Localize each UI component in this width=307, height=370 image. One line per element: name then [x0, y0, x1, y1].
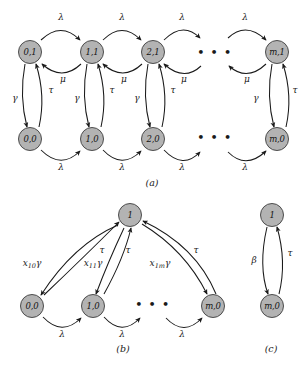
b-lambda-1: λ [59, 329, 65, 339]
a-mu-2: μ [121, 74, 127, 84]
a-lambda-top-1: λ [58, 12, 64, 22]
a-lambda-bot-3: λ [179, 162, 185, 172]
a-lambda-bot-4: λ [242, 162, 248, 172]
a-gamma-4: γ [253, 93, 258, 103]
a-lambda-top-4: λ [242, 12, 248, 22]
a-gamma-1: γ [12, 93, 17, 103]
b-lambda-2: λ [119, 329, 125, 339]
c-node-m-0-label: m,0 [264, 301, 280, 311]
b-x11gamma: x11γ [84, 258, 103, 269]
a-tau-4: τ [293, 85, 298, 95]
label-layer: 0,11,12,1m,10,01,02,0m,0• • •• • •λλλλμμ… [0, 0, 307, 370]
a-ellipsis-top: • • • [197, 45, 233, 60]
b-tau-1: τ [100, 245, 105, 255]
b-x1mgamma: x1mγ [150, 258, 171, 269]
c-tau: τ [288, 248, 293, 258]
a-lambda-bot-1: λ [58, 162, 64, 172]
a-node-1-0-label: 1,0 [86, 134, 99, 144]
a-lambda-bot-2: λ [119, 162, 125, 172]
a-node-2-0-label: 2,0 [147, 134, 160, 144]
panel-a-caption: (a) [145, 177, 158, 188]
c-beta: β [251, 255, 256, 265]
b-node-0-0-label: 0,0 [26, 301, 39, 311]
a-node-1-1-label: 1,1 [86, 47, 99, 57]
a-node-m-0-label: m,0 [269, 134, 285, 144]
c-node-1-label: 1 [269, 210, 274, 220]
a-mu-1: μ [60, 74, 66, 84]
panel-c-caption: (c) [265, 343, 278, 354]
a-lambda-top-3: λ [179, 12, 185, 22]
b-x10gamma: x10γ [23, 258, 42, 269]
a-tau-3: τ [171, 85, 176, 95]
a-lambda-top-2: λ [119, 12, 125, 22]
a-node-m-1-label: m,1 [269, 47, 285, 57]
a-mu-4: μ [244, 74, 250, 84]
panel-b-caption: (b) [116, 343, 130, 354]
a-tau-1: τ [49, 85, 54, 95]
b-node-1-0-label: 1,0 [87, 301, 100, 311]
b-ellipsis: • • • [135, 297, 171, 312]
b-node-1-label: 1 [127, 210, 132, 220]
markov-chain-figure: 0,11,12,1m,10,01,02,0m,0• • •• • •λλλλμμ… [0, 0, 307, 370]
a-ellipsis-bottom: • • • [197, 130, 233, 145]
a-mu-3: μ [181, 74, 187, 84]
b-tau-3: τ [194, 245, 199, 255]
b-tau-2: τ [126, 245, 131, 255]
b-node-m-0-label: m,0 [205, 301, 221, 311]
b-lambda-3: λ [179, 329, 185, 339]
a-gamma-3: γ [134, 93, 139, 103]
a-node-0-0-label: 0,0 [24, 134, 37, 144]
a-node-2-1-label: 2,1 [147, 47, 160, 57]
a-gamma-2: γ [74, 93, 79, 103]
a-tau-2: τ [110, 85, 115, 95]
a-node-0-1-label: 0,1 [24, 47, 37, 57]
